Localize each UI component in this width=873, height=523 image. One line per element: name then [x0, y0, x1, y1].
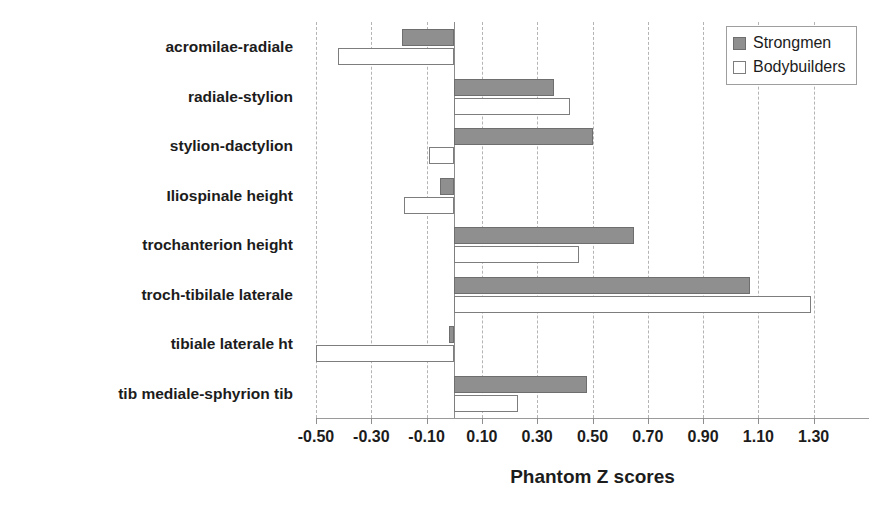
- x-tick-label: 1.30: [798, 428, 829, 446]
- legend-swatch-bodybuilders-icon: [733, 61, 746, 74]
- legend: Strongmen Bodybuilders: [726, 26, 857, 85]
- x-tick-label: 0.50: [577, 428, 608, 446]
- bar-group: [316, 369, 869, 419]
- bar-group: [316, 319, 869, 369]
- x-tick-label: 0.90: [688, 428, 719, 446]
- x-tick-mark: [482, 418, 483, 424]
- bar-group: [316, 270, 869, 320]
- x-tick-mark: [593, 418, 594, 424]
- bar-bodybuilders: [454, 296, 811, 313]
- category-label: tib mediale-sphyrion tib: [0, 369, 303, 419]
- bar-bodybuilders: [454, 98, 570, 115]
- category-axis-labels: acromilae-radialeradiale-stylionstylion-…: [0, 22, 303, 418]
- bar-group: [316, 171, 869, 221]
- legend-item-bodybuilders: Bodybuilders: [733, 55, 850, 79]
- bar-strongmen: [454, 277, 750, 294]
- bar-bodybuilders: [316, 345, 454, 362]
- bar-bodybuilders: [454, 395, 518, 412]
- bar-strongmen: [440, 178, 454, 195]
- bar-bodybuilders: [338, 48, 454, 65]
- x-tick-label: -0.50: [298, 428, 334, 446]
- bar-strongmen: [454, 79, 554, 96]
- category-label: acromilae-radiale: [0, 22, 303, 72]
- bar-strongmen: [454, 376, 587, 393]
- bar-strongmen: [402, 29, 455, 46]
- top-clipped-caption: [430, 0, 850, 7]
- bar-bodybuilders: [454, 246, 578, 263]
- legend-swatch-strongmen-icon: [733, 37, 746, 50]
- x-tick-mark: [814, 418, 815, 424]
- x-axis-title: Phantom Z scores: [316, 466, 869, 488]
- x-tick-label: 0.30: [522, 428, 553, 446]
- bar-group: [316, 220, 869, 270]
- bar-chart: acromilae-radialeradiale-stylionstylion-…: [0, 0, 873, 523]
- x-tick-mark: [758, 418, 759, 424]
- bar-strongmen: [449, 326, 455, 343]
- bar-strongmen: [454, 128, 592, 145]
- bar-strongmen: [454, 227, 634, 244]
- x-tick-mark: [537, 418, 538, 424]
- category-label: radiale-stylion: [0, 72, 303, 122]
- x-tick-mark: [703, 418, 704, 424]
- category-label: stylion-dactylion: [0, 121, 303, 171]
- legend-label-strongmen: Strongmen: [753, 34, 831, 52]
- legend-label-bodybuilders: Bodybuilders: [753, 58, 846, 76]
- category-label: tibiale laterale ht: [0, 319, 303, 369]
- x-tick-label: 0.70: [632, 428, 663, 446]
- category-label: Iliospinale height: [0, 171, 303, 221]
- x-tick-label: -0.30: [353, 428, 389, 446]
- x-tick-label: 0.10: [466, 428, 497, 446]
- x-tick-label: 1.10: [743, 428, 774, 446]
- bar-bodybuilders: [404, 197, 454, 214]
- category-label: trochanterion height: [0, 220, 303, 270]
- category-label: troch-tibilale laterale: [0, 270, 303, 320]
- bar-group: [316, 121, 869, 171]
- x-tick-mark: [648, 418, 649, 424]
- legend-item-strongmen: Strongmen: [733, 31, 850, 55]
- bar-bodybuilders: [429, 147, 454, 164]
- x-tick-label: -0.10: [408, 428, 444, 446]
- x-tick-mark: [316, 418, 317, 424]
- x-tick-mark: [371, 418, 372, 424]
- x-tick-mark: [427, 418, 428, 424]
